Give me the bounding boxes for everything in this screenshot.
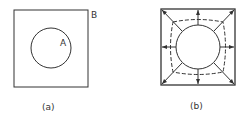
panel-a: [14, 10, 88, 87]
diagram-canvas: [0, 0, 248, 114]
label-a: A: [60, 38, 66, 48]
circle-a: [31, 28, 71, 68]
label-b: B: [91, 10, 97, 20]
caption-a: (a): [42, 102, 55, 112]
inner-circle: [176, 25, 220, 69]
caption-b: (b): [190, 101, 203, 111]
panel-b: [161, 9, 235, 85]
radial-arrows: [162, 10, 234, 84]
square-b: [14, 10, 88, 87]
